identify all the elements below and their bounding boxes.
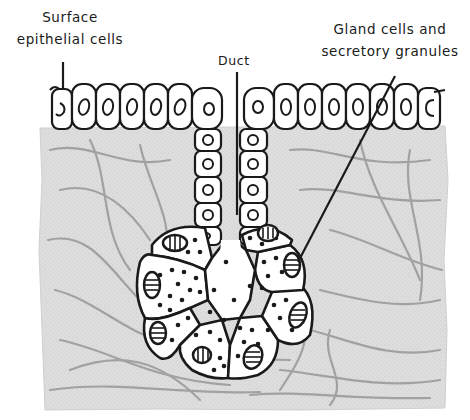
- surface-epithelium: [50, 84, 445, 129]
- gland-diagram: [0, 0, 470, 420]
